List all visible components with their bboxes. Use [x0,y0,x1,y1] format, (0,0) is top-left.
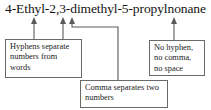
connector-nospace [171,17,177,40]
page-title: 4-Ethyl-2,3-dimethyl-5-propylnonane [0,1,211,17]
nomenclature-annotation-figure: 4-Ethyl-2,3-dimethyl-5-propylnonane Hyph… [0,0,211,110]
annotation-box-comma: Comma separates two numbers [80,80,168,108]
connector-hyphen-1 [31,17,37,39]
annotation-box-hyphens: Hyphens separate numbers from words [5,39,82,78]
connector-hyphen-2 [60,17,66,39]
annotation-box-nospace: No hyphen, no comma, no space [149,40,205,76]
